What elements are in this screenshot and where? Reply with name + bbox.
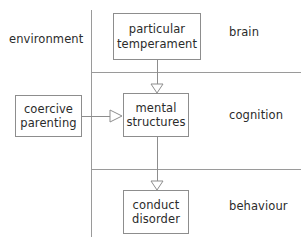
- node-mental-structures: mental structures: [123, 93, 189, 137]
- node-label-mental-structures: mental structures: [126, 101, 185, 129]
- node-label-coercive-parenting: coercive parenting: [20, 102, 76, 130]
- zone-label-environment: environment: [9, 33, 83, 46]
- node-conduct-disorder: conduct disorder: [123, 190, 189, 234]
- node-label-conduct-disorder: conduct disorder: [132, 198, 180, 226]
- zone-label-brain: brain: [229, 26, 259, 39]
- arrowhead-down-icon: [151, 84, 163, 93]
- diagram-canvas: environment brain cognition behaviour pa…: [0, 0, 302, 242]
- node-particular-temperament: particular temperament: [113, 13, 201, 60]
- edge-coercive-parenting-to-mental-structures: [82, 110, 122, 122]
- zone-label-behaviour: behaviour: [229, 200, 288, 213]
- edge-mental-structures-to-conduct-disorder: [151, 137, 163, 190]
- arrowhead-down-icon: [151, 181, 163, 190]
- node-coercive-parenting: coercive parenting: [15, 95, 82, 137]
- node-label-particular-temperament: particular temperament: [117, 22, 197, 50]
- arrowhead-right-icon: [110, 110, 122, 122]
- zone-label-cognition: cognition: [229, 109, 283, 122]
- edge-temperament-to-mental-structures: [151, 60, 163, 93]
